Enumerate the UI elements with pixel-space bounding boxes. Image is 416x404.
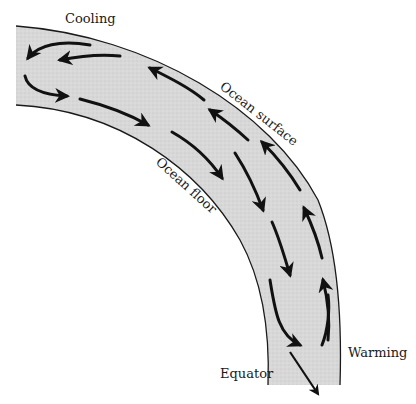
ocean-water-band	[16, 26, 340, 385]
cooling-label: Cooling	[65, 11, 116, 26]
equator-label: Equator	[220, 366, 274, 381]
warming-label: Warming	[348, 345, 407, 360]
ocean-circulation-diagram: Cooling Ocean surface Ocean floor Warmin…	[0, 0, 416, 404]
